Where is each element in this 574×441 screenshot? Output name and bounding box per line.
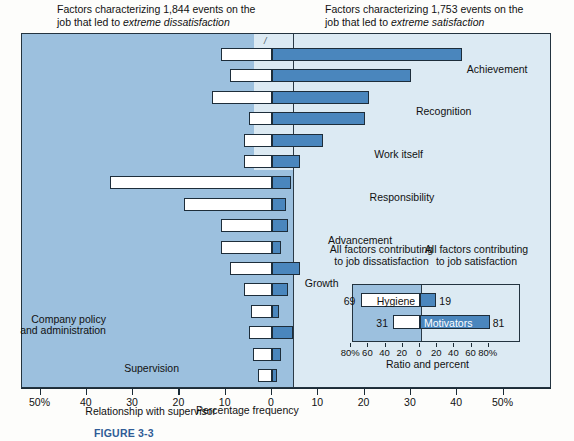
bar-dissatisfaction [110, 176, 272, 189]
bar-row: Work itself [22, 91, 552, 104]
inset-chart: 6919Hygiene3181Motivators [352, 284, 520, 342]
bar-dissatisfaction [230, 69, 272, 82]
x-axis-tick-label: 20 [358, 396, 370, 408]
bar-satisfaction [272, 262, 300, 275]
inset-value-dissatisfaction: 69 [344, 295, 356, 307]
x-axis-tick-label: 30 [404, 396, 416, 408]
caption-dissatisfaction: Factors characterizing 1,844 events on t… [57, 3, 277, 28]
caption-dissatisfaction-line1: Factors characterizing 1,844 events on t… [57, 3, 255, 15]
inset-category-label: Motivators [424, 317, 472, 329]
bar-dissatisfaction [221, 241, 272, 254]
bar-dissatisfaction [258, 369, 272, 382]
bar-dissatisfaction [212, 91, 272, 104]
inset-x-axis-title: Ratio and percent [386, 358, 469, 370]
x-axis-tick [456, 389, 457, 395]
bar-dissatisfaction [244, 283, 272, 296]
bar-dissatisfaction [251, 305, 272, 318]
inset-category-label: Hygiene [377, 295, 416, 307]
bar-row: Company policyand administration [22, 176, 552, 189]
bar-dissatisfaction [244, 155, 272, 168]
bar-satisfaction [272, 326, 293, 339]
stray-mark: / [264, 36, 267, 46]
inset-heading-dissatisfaction: All factors contributing to job dissatis… [329, 243, 434, 267]
x-axis-tick-label: 30 [126, 396, 138, 408]
x-axis-tick [86, 389, 87, 395]
x-axis-tick [503, 389, 504, 395]
bar-satisfaction [272, 69, 411, 82]
inset-heading-satisfaction: All factors contributing to job satisfac… [424, 243, 529, 267]
bar-satisfaction [272, 241, 281, 254]
bar-row: Responsibility [22, 112, 552, 125]
bar-dissatisfaction [244, 134, 272, 147]
bar-dissatisfaction [249, 326, 272, 339]
bar-row: Growth [22, 155, 552, 168]
bar-dissatisfaction [253, 348, 272, 361]
bar-row: Supervision [22, 198, 552, 211]
bar-row: Achievement [22, 48, 552, 61]
caption-satisfaction-emphasis: extreme satisfaction [391, 16, 484, 28]
figure-caption: FIGURE 3-3 [94, 427, 154, 439]
bar-satisfaction [272, 198, 286, 211]
inset-bar-dissatisfaction [393, 315, 420, 329]
inset-axis-tick-label: 20 [397, 347, 408, 358]
figure-canvas: Factors characterizing 1,844 events on t… [0, 0, 574, 441]
inset-axis-tick-label: 40 [448, 347, 459, 358]
caption-satisfaction-line2-pre: job that led to [325, 16, 391, 28]
x-axis-tick-label: 40 [80, 396, 92, 408]
bar-satisfaction [272, 283, 288, 296]
bar-satisfaction [272, 112, 365, 125]
x-axis-tick [317, 389, 318, 395]
bar-dissatisfaction [221, 219, 272, 232]
bar-dissatisfaction [249, 112, 272, 125]
x-axis-tick-label: 10 [311, 396, 323, 408]
x-axis-tick [225, 389, 226, 395]
bar-satisfaction [272, 48, 462, 61]
bar-satisfaction [272, 91, 369, 104]
bar-dissatisfaction [230, 262, 272, 275]
bar-dissatisfaction [184, 198, 272, 211]
caption-dissatisfaction-emphasis: extreme dissatisfaction [123, 16, 230, 28]
bar-row: Recognition [22, 69, 552, 82]
inset-axis-tick-label: 80% [341, 347, 360, 358]
inset-axis-tick-label: 20 [431, 347, 442, 358]
bar-row: Advancement [22, 134, 552, 147]
x-axis-tick [271, 389, 272, 395]
bar-row: Security [22, 369, 552, 382]
caption-satisfaction: Factors characterizing 1,753 events on t… [325, 3, 550, 28]
inset-axis-tick-label: 60 [362, 347, 373, 358]
bar-satisfaction [272, 176, 291, 189]
x-axis-tick-label: 50% [492, 396, 513, 408]
bar-row: Relationship with supervisor [22, 219, 552, 232]
x-axis-tick [178, 389, 179, 395]
x-axis-tick-label: 40 [450, 396, 462, 408]
caption-satisfaction-line1: Factors characterizing 1,753 events on t… [325, 3, 523, 15]
inset-axis-tick-label: 60 [465, 347, 476, 358]
x-axis-tick [40, 389, 41, 395]
inset-bar-satisfaction [420, 293, 436, 307]
x-axis-tick [132, 389, 133, 395]
caption-dissatisfaction-line2-pre: job that led to [57, 16, 123, 28]
x-axis-title: Percentage frequency [196, 404, 299, 416]
inset-axis-tick-label: 0 [416, 347, 421, 358]
inset-axis-tick-label: 40 [379, 347, 390, 358]
inset-x-axis: 80%604020020406080% [352, 343, 520, 345]
x-axis-tick-label: 50% [29, 396, 50, 408]
bar-satisfaction [272, 219, 288, 232]
bar-dissatisfaction [221, 48, 272, 61]
bar-satisfaction [272, 134, 323, 147]
x-axis-tick [410, 389, 411, 395]
inset-value-satisfaction: 19 [439, 295, 451, 307]
bar-satisfaction [272, 348, 281, 361]
bar-satisfaction [272, 369, 277, 382]
x-axis: 50%4030201001020304050% [21, 388, 551, 391]
x-axis-tick [364, 389, 365, 395]
inset-value-dissatisfaction: 31 [376, 317, 388, 329]
inset-value-satisfaction: 81 [493, 317, 505, 329]
inset-axis-tick-label: 80% [478, 347, 497, 358]
x-axis-tick-label: 20 [173, 396, 185, 408]
bar-satisfaction [272, 155, 300, 168]
bar-satisfaction [272, 305, 279, 318]
